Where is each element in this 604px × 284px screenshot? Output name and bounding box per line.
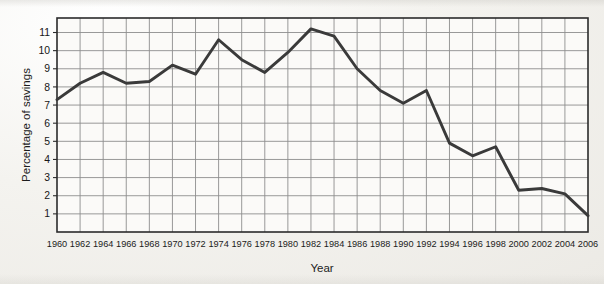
y-tick-label: 5 <box>44 136 50 147</box>
x-tick-label: 1974 <box>208 239 228 249</box>
x-tick-label: 1994 <box>439 239 459 249</box>
x-tick-label: 1992 <box>416 239 436 249</box>
y-tick-label: 10 <box>38 45 50 56</box>
chart-canvas: 1234567891011 19601962196419661968197019… <box>0 0 604 284</box>
y-tick-label: 4 <box>44 154 50 165</box>
x-tick-label: 1970 <box>162 239 182 249</box>
plot-area-background <box>57 18 588 232</box>
x-tick-label: 1982 <box>301 239 321 249</box>
y-tick-label: 6 <box>44 118 50 129</box>
x-tick-label: 1976 <box>231 239 251 249</box>
x-tick-label: 1978 <box>255 239 275 249</box>
x-tick-label: 2002 <box>532 239 552 249</box>
x-axis-tick-labels: 1960196219641966196819701972197419761978… <box>47 239 598 249</box>
x-tick-label: 1990 <box>393 239 413 249</box>
x-tick-label: 1968 <box>139 239 159 249</box>
y-tick-label: 11 <box>39 27 50 38</box>
y-axis-tick-labels: 1234567891011 <box>38 27 57 219</box>
x-tick-label: 1960 <box>47 239 67 249</box>
x-tick-label: 2000 <box>509 239 529 249</box>
y-tick-label: 7 <box>44 100 50 111</box>
savings-line-chart: 1234567891011 19601962196419661968197019… <box>0 0 604 284</box>
x-tick-label: 1972 <box>185 239 205 249</box>
x-tick-label: 2006 <box>578 239 598 249</box>
y-tick-label: 1 <box>44 208 50 219</box>
x-tick-label: 1996 <box>462 239 482 249</box>
x-tick-label: 1980 <box>278 239 298 249</box>
x-axis-title: Year <box>310 262 333 274</box>
y-tick-label: 3 <box>44 172 50 183</box>
y-tick-label: 2 <box>44 190 50 201</box>
y-tick-label: 8 <box>44 82 50 93</box>
x-tick-label: 2004 <box>555 239 575 249</box>
y-axis-title: Percentage of savings <box>20 68 32 182</box>
x-tick-label: 1984 <box>324 239 344 249</box>
x-tick-label: 1998 <box>485 239 505 249</box>
y-tick-label: 9 <box>44 63 50 74</box>
x-tick-label: 1962 <box>70 239 90 249</box>
x-tick-label: 1964 <box>93 239 113 249</box>
x-tick-label: 1986 <box>347 239 367 249</box>
x-tick-label: 1966 <box>116 239 136 249</box>
x-tick-label: 1988 <box>370 239 390 249</box>
